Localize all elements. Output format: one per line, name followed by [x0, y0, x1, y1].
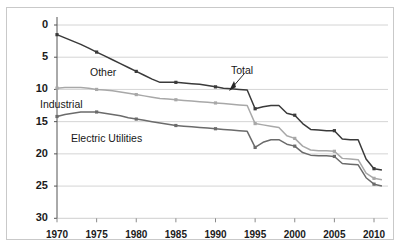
marker-industrial-1975	[95, 88, 98, 91]
series-line-electric-utilities	[57, 112, 382, 186]
marker-electric-utilities-1985	[174, 124, 177, 127]
marker-total-1975	[95, 50, 98, 53]
y-tick-label-30: 0	[22, 18, 48, 30]
marker-industrial-1985	[174, 98, 177, 101]
x-tick-label-1985: 1985	[156, 229, 196, 240]
x-tick-label-1975: 1975	[77, 229, 117, 240]
x-tick-label-1990: 1990	[196, 229, 236, 240]
annotation-industrial: Industrial	[40, 98, 83, 110]
marker-electric-utilities-1990	[214, 127, 217, 130]
x-tick-label-2000: 2000	[275, 229, 315, 240]
x-tick-label-1970: 1970	[37, 229, 77, 240]
marker-total-1970	[55, 33, 58, 36]
chart-screenshot: 302520151050 197019751980198519901995200…	[0, 0, 400, 252]
y-tick-label-5: 25	[22, 179, 48, 191]
marker-industrial-2000	[293, 137, 296, 140]
marker-industrial-2005	[333, 150, 336, 153]
marker-industrial-2010	[372, 177, 375, 180]
y-tick-label-0: 30	[22, 211, 48, 223]
marker-total-2000	[293, 114, 296, 117]
line-chart	[0, 0, 400, 252]
marker-total-1990	[214, 85, 217, 88]
marker-electric-utilities-1980	[135, 117, 138, 120]
annotation-other: Other	[90, 66, 116, 78]
marker-industrial-1995	[254, 122, 257, 125]
y-tick-label-20: 10	[22, 82, 48, 94]
x-tick-label-2005: 2005	[314, 229, 354, 240]
marker-electric-utilities-1975	[95, 110, 98, 113]
marker-electric-utilities-2010	[372, 183, 375, 186]
marker-electric-utilities-1970	[55, 115, 58, 118]
x-tick-label-1995: 1995	[235, 229, 275, 240]
x-tick-label-2010: 2010	[354, 229, 394, 240]
marker-electric-utilities-1995	[254, 146, 257, 149]
marker-industrial-1980	[135, 93, 138, 96]
x-tick-label-1980: 1980	[116, 229, 156, 240]
marker-total-1995	[254, 107, 257, 110]
callout-arrows	[229, 74, 244, 91]
y-tick-label-25: 5	[22, 50, 48, 62]
marker-electric-utilities-2005	[333, 155, 336, 158]
series-layer	[55, 33, 382, 186]
marker-electric-utilities-2000	[293, 145, 296, 148]
marker-total-2005	[333, 129, 336, 132]
marker-total-1980	[135, 70, 138, 73]
gridlines	[57, 25, 388, 218]
marker-industrial-1970	[55, 87, 58, 90]
annotation-total: Total	[231, 64, 253, 76]
marker-total-1985	[174, 81, 177, 84]
y-tick-label-10: 20	[22, 147, 48, 159]
marker-total-2010	[372, 167, 375, 170]
series-line-total	[57, 35, 382, 170]
x-tick-marks	[57, 218, 374, 222]
y-tick-label-15: 15	[22, 115, 48, 127]
annotation-electric-utilities: Electric Utilities	[71, 132, 142, 144]
marker-industrial-1990	[214, 101, 217, 104]
